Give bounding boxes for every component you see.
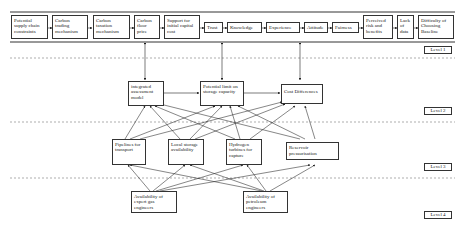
node-cost-differences: Cost Differences — [281, 84, 323, 104]
factor-lack-of-data: Lack of data — [397, 15, 414, 39]
node-reservoir-pressurisation: Reservoir pressurisation — [286, 142, 339, 160]
factor-carbon-floor: Carbon floor price — [134, 15, 160, 39]
level-label-1: Level 1 — [424, 46, 452, 54]
factor-supply-chain: Potential supply chain constraints — [11, 15, 48, 39]
factor-carbon-trading: Carbon trading mechanism — [52, 15, 88, 39]
factor-baseline-difficulty: Difficulty of Choosing Baseline — [418, 15, 454, 39]
node-storage-capacity-limit: Potential limit on storage capacity — [200, 81, 244, 106]
node-pipelines: Pipelines for transport — [112, 139, 146, 165]
factor-carbon-taxation: Carbon taxation mechanism — [93, 15, 130, 39]
factor-experience: Experience — [266, 22, 300, 33]
factor-knowledge: Knowledge — [227, 22, 262, 33]
level-label-4: Level 4 — [424, 211, 452, 219]
level-label-2: Level 2 — [424, 107, 452, 115]
factor-perceived-risk: Perceived risk and benefits — [363, 15, 393, 39]
node-hydrogen-turbines: Hydrogen turbines for capture — [226, 139, 262, 165]
factor-fairness: Fairness — [332, 22, 359, 33]
node-local-storage: Local storage availability — [168, 139, 204, 165]
level-label-3: Level 3 — [424, 163, 452, 171]
node-petroleum-engineers: Availability of petroleum engineers — [243, 191, 288, 213]
factor-attitude: Attitude — [304, 22, 328, 33]
node-integrated-assessment-model: integrated assessment model — [128, 81, 164, 106]
factor-trust: Trust — [204, 22, 223, 33]
factor-capital-support: Support for initial capital cost — [164, 15, 200, 39]
node-expert-gas-engineers: Availability of expert gas engineers — [131, 191, 177, 213]
hierarchy-diagram: Potential supply chain constraints Carbo… — [0, 0, 467, 235]
